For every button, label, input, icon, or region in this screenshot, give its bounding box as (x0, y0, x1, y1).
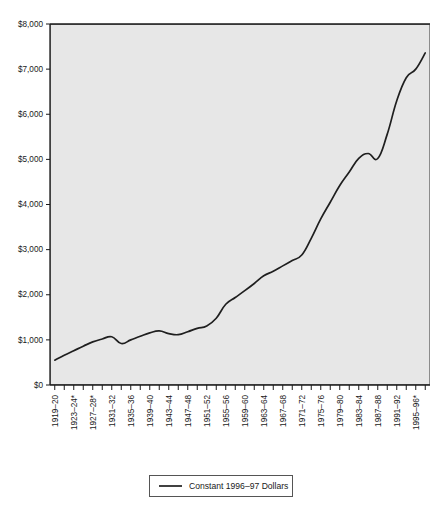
x-tick-group (55, 385, 426, 390)
x-tick-label-group: 1919–201923–24*1927–28*1931–321935–36193… (51, 394, 421, 430)
x-tick-label: 1927–28* (89, 394, 98, 430)
y-tick-label: $3,000 (18, 245, 43, 254)
x-tick-label: 1987–88 (374, 395, 383, 427)
x-tick-label: 1951–52 (203, 395, 212, 427)
y-tick-label: $1,000 (18, 336, 43, 345)
x-tick-label: 1979–80 (336, 395, 345, 427)
y-tick-label: $8,000 (18, 20, 43, 29)
legend-label-constant-dollars: Constant 1996–97 Dollars (189, 481, 288, 491)
x-tick-label: 1935–36 (127, 395, 136, 427)
x-tick-label: 1919–20 (51, 395, 60, 427)
x-tick-label: 1943–44 (165, 395, 174, 427)
x-tick-label: 1947–48 (184, 395, 193, 427)
x-tick-label: 1971–72 (298, 395, 307, 427)
x-tick-label: 1955–56 (222, 395, 231, 427)
line-chart: $0$1,000$2,000$3,000$4,000$5,000$6,000$7… (0, 0, 441, 511)
x-tick-label: 1963–64 (260, 395, 269, 427)
y-tick-label: $5,000 (18, 155, 43, 164)
chart-legend: Constant 1996–97 Dollars (150, 476, 293, 497)
chart-container: $0$1,000$2,000$3,000$4,000$5,000$6,000$7… (0, 0, 441, 511)
y-tick-group: $0$1,000$2,000$3,000$4,000$5,000$6,000$7… (18, 20, 50, 390)
x-tick-label: 1991–92 (393, 395, 402, 427)
x-tick-label: 1931–32 (108, 395, 117, 427)
x-tick-label: 1983–84 (355, 395, 364, 427)
x-tick-label: 1975–76 (317, 395, 326, 427)
x-tick-label: 1967–68 (279, 395, 288, 427)
plot-area-background (50, 24, 430, 385)
x-tick-label: 1923–24* (70, 394, 79, 430)
y-tick-label: $7,000 (18, 65, 43, 74)
y-tick-label: $0 (34, 381, 44, 390)
x-tick-label: 1995–96* (412, 394, 421, 430)
x-tick-label: 1959–60 (241, 395, 250, 427)
y-tick-label: $4,000 (18, 200, 43, 209)
x-tick-label: 1939–40 (146, 395, 155, 427)
y-tick-label: $6,000 (18, 110, 43, 119)
y-tick-label: $2,000 (18, 290, 43, 299)
